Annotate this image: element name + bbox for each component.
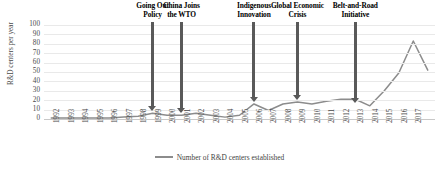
y-axis-label: R&D centers per year: [8, 18, 15, 90]
y-axis-tick-20: 20: [33, 97, 40, 104]
x-axis-tick-2006: 2006: [257, 109, 264, 123]
annotation-arrow-head-indigenous: [250, 97, 258, 102]
y-axis-tick-100: 100: [29, 21, 40, 28]
x-axis-tick-2013: 2013: [358, 109, 365, 123]
x-axis-tick-1996: 1996: [112, 109, 119, 123]
legend-swatch-r-and-d-centers: [155, 156, 173, 158]
chart-legend: Number of R&D centers established: [0, 152, 439, 162]
y-axis-tick-80: 80: [33, 40, 40, 47]
y-axis-tick-0: 0: [36, 115, 40, 122]
x-axis-tick-2003: 2003: [214, 109, 221, 123]
plot-area: [44, 25, 435, 119]
x-axis-tick-2007: 2007: [271, 109, 278, 123]
annotation-label-line2-china-joins: the WTO: [144, 11, 220, 20]
x-axis-tick-1993: 1993: [69, 109, 76, 123]
annotation-label-line2-belt-and-road: Initiative: [317, 11, 393, 20]
x-axis-tick-1998: 1998: [141, 109, 148, 123]
annotation-arrow-shaft-indigenous: [252, 22, 255, 97]
x-axis-tick-1997: 1997: [127, 109, 134, 123]
annotation-arrow-shaft-belt-and-road: [354, 22, 357, 98]
y-axis-tick-50: 50: [33, 68, 40, 75]
x-axis-tick-2016: 2016: [402, 109, 409, 123]
x-axis-tick-1994: 1994: [83, 109, 90, 123]
x-axis-tick-1999: 1999: [156, 109, 163, 123]
x-axis-tick-2000: 2000: [170, 109, 177, 123]
annotation-arrow-shaft-global-economic: [296, 22, 299, 95]
x-axis-tick-2012: 2012: [344, 109, 351, 123]
gridline-100: [44, 25, 435, 26]
annotation-arrow-head-global-economic: [293, 95, 301, 100]
x-axis-tick-1995: 1995: [98, 109, 105, 123]
annotation-arrow-head-belt-and-road: [351, 98, 359, 103]
gridline-70: [44, 53, 435, 54]
gridline-20: [44, 100, 435, 101]
x-axis-tick-2015: 2015: [387, 109, 394, 123]
x-axis-tick-2010: 2010: [315, 109, 322, 123]
line-chart: R&D centers per year 1009080706050403020…: [0, 0, 439, 169]
annotation-arrow-shaft-going-out: [151, 22, 154, 106]
x-axis-tick-2014: 2014: [373, 109, 380, 123]
annotation-label-china-joins: China Joinsthe WTO: [144, 2, 220, 19]
x-axis-tick-2017: 2017: [416, 109, 423, 123]
gridline-40: [44, 81, 435, 82]
annotation-arrow-head-going-out: [148, 106, 156, 111]
y-axis-tick-90: 90: [33, 31, 40, 38]
x-axis-tick-2009: 2009: [300, 109, 307, 123]
gridline-30: [44, 91, 435, 92]
annotation-arrow-shaft-china-joins: [180, 22, 183, 108]
x-axis-tick-2005: 2005: [243, 109, 250, 123]
gridline-50: [44, 72, 435, 73]
gridline-60: [44, 63, 435, 64]
y-axis-tick-30: 30: [33, 87, 40, 94]
legend-label-r-and-d-centers: Number of R&D centers established: [177, 153, 285, 162]
gridline-90: [44, 34, 435, 35]
x-axis-tick-1992: 1992: [54, 109, 61, 123]
x-axis-tick-2001: 2001: [185, 109, 192, 123]
x-axis-tick-2004: 2004: [228, 109, 235, 123]
x-axis-tick-2008: 2008: [286, 109, 293, 123]
y-axis-tick-70: 70: [33, 50, 40, 57]
gridline-80: [44, 44, 435, 45]
x-axis-tick-2011: 2011: [329, 109, 336, 123]
y-axis-tick-40: 40: [33, 78, 40, 85]
annotation-arrow-head-china-joins: [177, 108, 185, 113]
x-axis-tick-2002: 2002: [199, 109, 206, 123]
y-axis-ticks: 1009080706050403020100: [18, 0, 40, 169]
annotation-label-belt-and-road: Belt-and-RoadInitiative: [317, 2, 393, 19]
y-axis-tick-10: 10: [33, 106, 40, 113]
y-axis-tick-60: 60: [33, 59, 40, 66]
